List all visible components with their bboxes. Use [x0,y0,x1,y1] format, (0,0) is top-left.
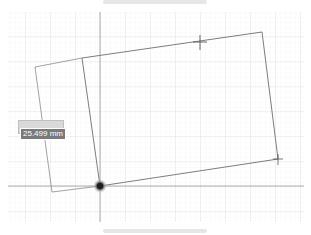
sketch-canvas[interactable] [0,0,311,235]
dimension-input[interactable]: 25.499 mm [18,120,64,134]
bottom-scroll-handle[interactable] [103,229,207,233]
grid [8,12,304,222]
dimension-value[interactable]: 25.499 mm [21,129,65,139]
origin-point-icon[interactable] [93,179,107,193]
